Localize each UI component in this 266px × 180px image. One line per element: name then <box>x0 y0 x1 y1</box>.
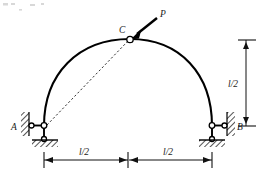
dimension-label-span-left: l/2 <box>79 147 89 157</box>
diagram-canvas: P C A <box>0 0 266 180</box>
dimension-horizontal: l/2 l/2 <box>44 147 212 168</box>
support-left-assembly: A <box>10 112 58 147</box>
hinge-circle-icon-crown <box>127 36 133 42</box>
hinge-circle-icon-left-wall <box>29 123 34 128</box>
support-label-b: B <box>237 122 243 132</box>
arrowhead-icon-dim-h-right-start <box>130 157 138 163</box>
arrowhead-icon-dim-h-left-end <box>119 157 127 163</box>
arrowhead-icon-dim-h-right-end <box>203 157 211 163</box>
hinge-circle-icon-right-wall <box>222 123 227 128</box>
crown-label-c: C <box>119 25 126 35</box>
dimension-label-span-right: l/2 <box>163 147 173 157</box>
hinge-circle-icon-left-base <box>41 123 47 129</box>
arrowhead-icon-dim-v-top <box>243 42 249 49</box>
arrowhead-icon-dim-h-left-start <box>45 157 53 163</box>
scan-artifacts <box>3 3 44 11</box>
support-label-a: A <box>10 122 17 132</box>
ground-hatch-icon-left-wall <box>21 112 29 136</box>
chord-line-a-c <box>47 41 128 125</box>
arch-curve <box>44 39 212 126</box>
arch-diagram-figure: P C A <box>0 0 266 180</box>
force-label-p: P <box>159 9 166 19</box>
ground-hatch-icon-right-base <box>199 140 225 147</box>
support-right-assembly: B <box>199 112 243 147</box>
force-arrow-p <box>131 18 158 40</box>
ground-hatch-icon-left-base <box>32 140 58 147</box>
arrowhead-icon-dim-v-bottom <box>243 117 249 124</box>
hinge-circle-icon-right-base <box>209 123 215 129</box>
ground-hatch-icon-right-wall <box>227 112 235 136</box>
dimension-label-vertical: l/2 <box>228 79 238 89</box>
